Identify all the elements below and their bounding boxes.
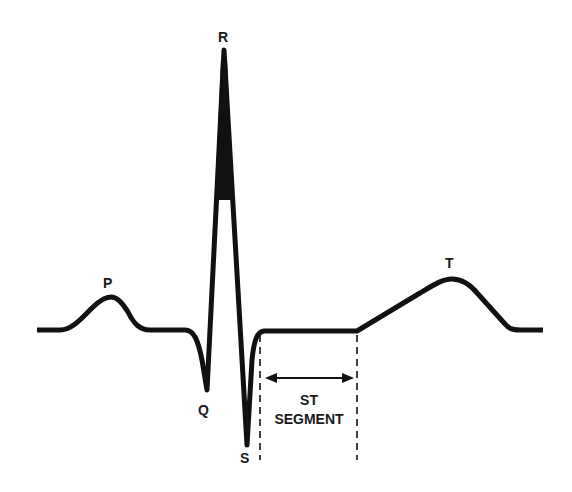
- label-st-line2: SEGMENT: [274, 411, 344, 427]
- st-arrow-head-right: [342, 373, 354, 383]
- label-st-line1: ST: [300, 392, 318, 408]
- label-t: T: [445, 255, 454, 271]
- ecg-diagram: R P Q S T ST SEGMENT: [0, 0, 572, 492]
- ecg-trace: [37, 50, 543, 445]
- st-arrow-head-left: [265, 373, 277, 383]
- label-q: Q: [198, 402, 209, 418]
- label-r: R: [218, 29, 228, 45]
- label-p: P: [103, 275, 112, 291]
- label-s: S: [240, 450, 249, 466]
